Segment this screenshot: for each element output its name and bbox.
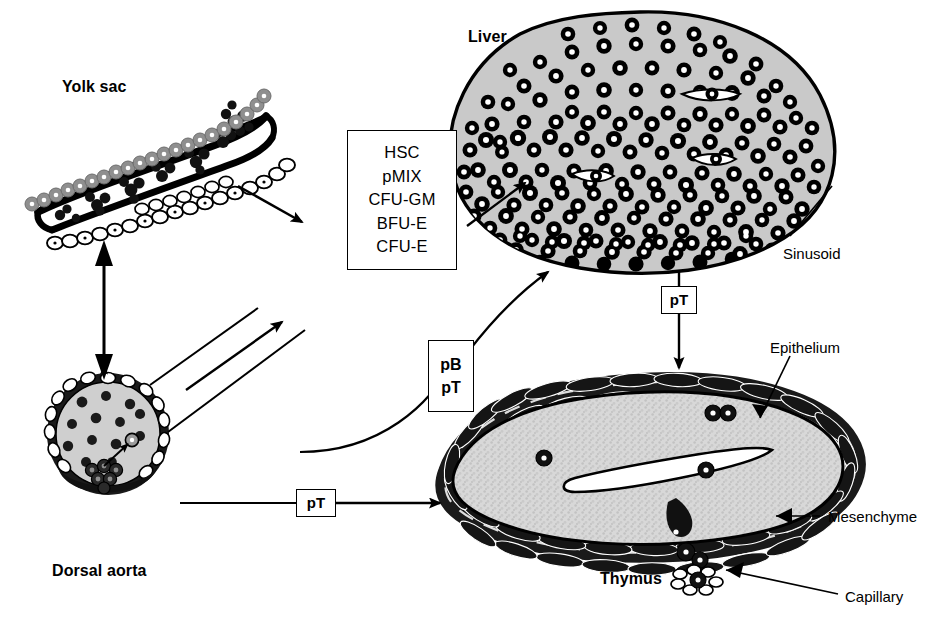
cell-type-cfu-e: CFU-E [376,235,427,258]
organ-label-yolk-sac: Yolk sac [62,78,127,96]
part-label-mesenchyme: Mesenchyme [828,508,917,525]
organ-label-thymus: Thymus [600,570,662,588]
cropped-caption-strip [0,608,949,626]
marker-box-pt-aorta-thymus: pT [296,489,336,517]
marker-pb: pB [440,353,461,376]
aorta-guide-line-1 [150,308,258,385]
cell-type-pmix: pMIX [382,165,421,188]
cell-type-hsc: HSC [384,141,419,164]
marker-box-pt-liver-thymus: pT [661,286,697,314]
yolk-sac-illustration [25,89,295,249]
arrow-aorta-to-box [186,322,282,390]
diagram-svg [0,0,949,626]
thymus-illustration [440,372,861,595]
organ-label-dorsal-aorta: Dorsal aorta [52,562,147,580]
liver-illustration [450,12,835,273]
capillary-leader-line [726,570,838,594]
progenitor-cell-type-box: HSC pMIX CFU-GM BFU-E CFU-E [347,130,457,270]
marker-pt: pT [441,376,461,399]
part-label-capillary: Capillary [845,588,903,605]
part-label-sinusoid: Sinusoid [783,245,841,262]
aorta-guide-line-2 [168,330,305,432]
part-label-epithelium: Epithelium [770,339,840,356]
arrow-aorta-to-liver-curved-upper [468,272,548,352]
cell-type-bfu-e: BFU-E [377,212,428,235]
figure-canvas: Yolk sac Liver Dorsal aorta Thymus Sinus… [0,0,949,626]
marker-pt-label: pT [307,492,325,514]
dorsal-aorta-illustration [44,370,171,495]
cell-type-cfu-gm: CFU-GM [368,188,435,211]
arrow-yolksac-to-box [238,186,302,222]
marker-pt-label: pT [670,289,688,311]
organ-label-liver: Liver [468,28,507,46]
marker-box-pb-pt: pB pT [428,340,474,412]
